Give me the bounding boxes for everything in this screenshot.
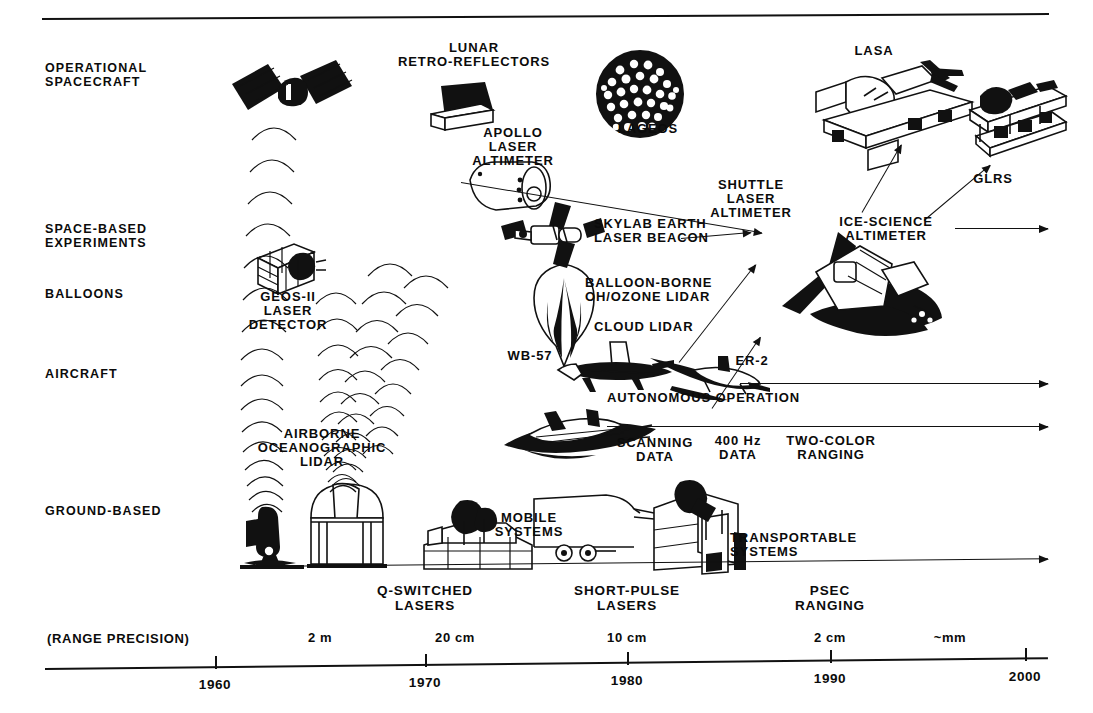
tick-1980 bbox=[627, 652, 629, 665]
label-shuttle-laser-altimeter: SHUTTLE LASER ALTIMETER bbox=[681, 178, 821, 220]
year-label-1990: 1990 bbox=[790, 672, 870, 687]
label-apollo-laser-altimeter: APOLLO LASER ALTIMETER bbox=[443, 126, 583, 168]
label-skylab-earth-laser-beacon: SKYLAB EARTH LASER BEACON bbox=[594, 217, 709, 245]
category-space-based-experiments: SPACE-BASED EXPERIMENTS bbox=[45, 223, 147, 250]
era-q-switched-lasers: Q-SWITCHED LASERS bbox=[350, 584, 500, 613]
year-label-1970: 1970 bbox=[385, 676, 465, 691]
year-label-2000: 2000 bbox=[985, 670, 1065, 685]
label-wb-57: WB-57 bbox=[494, 349, 566, 363]
tick-1970 bbox=[425, 654, 427, 667]
label-transportable-systems: TRANSPORTABLE SYSTEMS bbox=[730, 531, 857, 559]
range-precision-mm: ~mm bbox=[910, 631, 990, 645]
category-ground-based: GROUND-BASED bbox=[45, 505, 162, 519]
label-balloon-borne-oh-ozone-lidar: BALLOON-BORNE OH/OZONE LIDAR bbox=[585, 276, 712, 304]
era-psec-ranging: PSEC RANGING bbox=[760, 584, 900, 613]
category-aircraft: AIRCRAFT bbox=[45, 368, 118, 382]
tick-1990 bbox=[830, 650, 832, 663]
era-short-pulse-lasers: SHORT-PULSE LASERS bbox=[552, 584, 702, 613]
category-balloons: BALLOONS bbox=[45, 288, 124, 302]
range-precision-2m: 2 m bbox=[280, 631, 360, 645]
label-lageos: LAGEOS bbox=[593, 122, 703, 136]
autonomous-operation-arrow bbox=[740, 383, 1048, 384]
tick-1960 bbox=[215, 656, 217, 669]
range-precision-10cm: 10 cm bbox=[587, 631, 667, 645]
label-lunar-retro-reflectors: LUNAR RETRO-REFLECTORS bbox=[374, 41, 574, 69]
label-ice-science-altimeter: ICE-SCIENCE ALTIMETER bbox=[796, 215, 976, 243]
label-lasa: LASA bbox=[834, 44, 914, 58]
year-label-1980: 1980 bbox=[587, 674, 667, 689]
year-label-1960: 1960 bbox=[175, 678, 255, 693]
label-two-color-ranging: TWO-COLOR RANGING bbox=[766, 434, 896, 462]
label-airborne-oceanographic-lidar: AIRBORNE OCEANOGRAPHIC LIDAR bbox=[232, 427, 412, 469]
range-precision-2cm: 2 cm bbox=[790, 631, 870, 645]
label-mobile-systems: MOBILE SYSTEMS bbox=[469, 511, 589, 539]
aircraft-era-arrow bbox=[607, 426, 1048, 427]
label-autonomous-operation: AUTONOMOUS OPERATION bbox=[607, 391, 800, 405]
figure-canvas: OPERATIONAL SPACECRAFT SPACE-BASED EXPER… bbox=[0, 0, 1093, 713]
label-glrs: GLRS bbox=[953, 172, 1033, 186]
label-er-2: ER-2 bbox=[722, 354, 782, 368]
tick-2000 bbox=[1025, 648, 1027, 661]
category-operational-spacecraft: OPERATIONAL SPACECRAFT bbox=[45, 62, 147, 89]
label-cloud-lidar: CLOUD LIDAR bbox=[594, 320, 693, 334]
label-geos-ii-laser-detector: GEOS-II LASER DETECTOR bbox=[223, 290, 353, 332]
range-precision-caption: (RANGE PRECISION) bbox=[47, 632, 190, 646]
range-precision-20cm: 20 cm bbox=[415, 631, 495, 645]
